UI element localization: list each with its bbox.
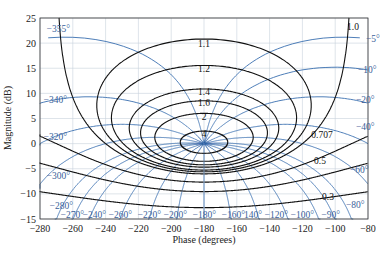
contour-label: −180° <box>193 210 217 220</box>
contour-label: −220° <box>138 210 162 220</box>
x-tick: −100 <box>325 223 346 234</box>
contour-label: 1.4 <box>198 87 210 97</box>
x-tick: −140 <box>259 223 280 234</box>
y-tick: 5 <box>31 113 36 124</box>
contour-label: −60° <box>350 165 369 175</box>
contour-label: −200° <box>164 210 188 220</box>
contour-label: 0.3 <box>322 192 334 202</box>
contour-label: −240° <box>83 210 107 220</box>
x-tick: −120 <box>292 223 313 234</box>
y-tick-labels: −15−10−50510152025 <box>20 13 36 225</box>
contour-label: −10° <box>358 65 377 75</box>
y-tick: 20 <box>26 38 36 49</box>
contour-label: 2 <box>202 112 207 122</box>
contour-label: 1.6 <box>198 98 210 108</box>
contour-label: −300° <box>47 171 71 181</box>
contour-label: 1.2 <box>198 64 210 74</box>
contour-label: 140° <box>244 210 262 220</box>
contour-label: 4 <box>202 129 207 139</box>
y-tick: −15 <box>20 214 36 225</box>
n-contour <box>205 137 368 183</box>
x-tick: −220 <box>128 223 149 234</box>
x-tick: −80 <box>360 223 376 234</box>
contour-label: −320° <box>44 132 68 142</box>
n-contour <box>205 124 368 143</box>
x-tick: −260 <box>62 223 83 234</box>
x-tick: −180 <box>194 223 215 234</box>
contour-label: −120° <box>265 210 289 220</box>
contour-label: −100° <box>291 210 315 220</box>
x-tick: −280 <box>30 223 51 234</box>
contour-label: −5° <box>366 34 380 44</box>
x-axis-label: Phase (degrees) <box>172 234 235 246</box>
n-contour <box>48 37 204 143</box>
x-tick: −200 <box>161 223 182 234</box>
contour-label: −260° <box>109 210 133 220</box>
contour-label: −40° <box>356 122 375 132</box>
n-contour <box>204 37 360 143</box>
contour-label: −280° <box>50 201 74 211</box>
x-tick: −160 <box>226 223 247 234</box>
contour-label: −160° <box>222 210 246 220</box>
y-tick: 15 <box>26 63 36 74</box>
y-axis-label: Magnitude (dB) <box>2 86 14 150</box>
contour-label: −20° <box>356 95 375 105</box>
contour-label: 0.5 <box>314 156 326 166</box>
contour-label: 1.1 <box>198 39 210 49</box>
contour-label: −80° <box>346 200 365 210</box>
contour-label: −90° <box>321 210 340 220</box>
contour-label: 0.707 <box>311 130 333 140</box>
contour-label: 1.0 <box>347 22 359 32</box>
n-contour <box>204 67 367 143</box>
contour-labels: 0.30.50.7071.01.11.21.41.624−5°−10°−20°−… <box>44 22 381 220</box>
y-tick: 10 <box>26 88 36 99</box>
contour-label: −270° <box>61 210 85 220</box>
x-tick: −240 <box>95 223 116 234</box>
contour-label: −355° <box>47 24 71 34</box>
nichols-chart: −280−260−240−220−200−180−160−140−120−100… <box>0 0 390 259</box>
y-tick: −5 <box>25 163 36 174</box>
x-tick-labels: −280−260−240−220−200−180−160−140−120−100… <box>30 223 376 234</box>
y-tick: −10 <box>20 188 36 199</box>
y-tick: 0 <box>31 138 36 149</box>
y-tick: 25 <box>26 13 36 24</box>
contour-label: −340° <box>44 95 68 105</box>
